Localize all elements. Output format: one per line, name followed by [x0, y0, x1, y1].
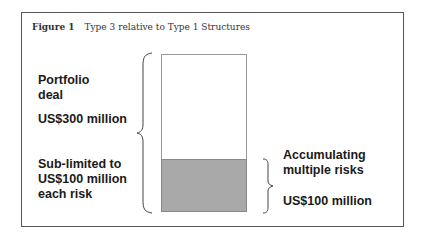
portfolio-label-line2: deal — [38, 88, 63, 103]
sublimit-label-line3: each risk — [38, 187, 92, 202]
portfolio-bar-unshaded — [161, 54, 247, 159]
accumulating-amount: US$100 million — [283, 194, 372, 209]
brace-left-icon — [136, 52, 156, 214]
sublimit-label-line2: US$100 million — [38, 172, 127, 187]
figure-caption: Figure 1Type 3 relative to Type 1 Struct… — [32, 22, 250, 32]
sublimit-label-line1: Sub-limited to — [38, 157, 121, 172]
accumulating-label-line1: Accumulating — [283, 148, 366, 163]
accumulating-label-line2: multiple risks — [283, 163, 364, 178]
portfolio-bar-shaded — [161, 159, 247, 212]
brace-right-icon — [262, 158, 276, 214]
figure-label: Figure 1 — [32, 22, 75, 32]
portfolio-amount: US$300 million — [38, 112, 127, 127]
portfolio-label-line1: Portfolio — [38, 73, 89, 88]
figure-title: Type 3 relative to Type 1 Structures — [85, 22, 250, 32]
